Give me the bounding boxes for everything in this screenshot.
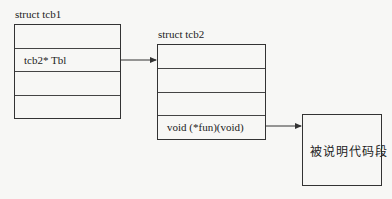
connector-arrows	[0, 0, 392, 199]
